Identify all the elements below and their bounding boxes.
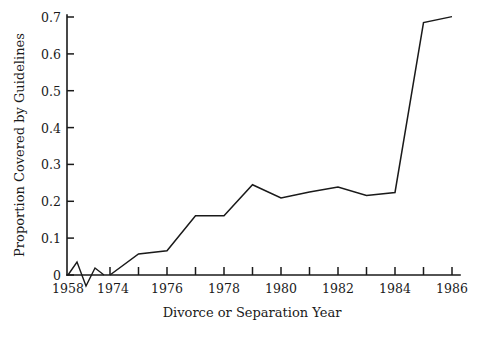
x-tick-label-1980: 1980 [265, 281, 297, 296]
data-series-line [110, 17, 452, 275]
y-tick-label: 0.2 [41, 194, 61, 209]
y-axis-title: Proportion Covered by Guidelines [12, 33, 27, 257]
x-axis-title: Divorce or Separation Year [163, 305, 342, 320]
y-tick-label: 0.5 [41, 84, 61, 99]
y-tick-label: 0.1 [41, 231, 61, 246]
y-tick-label: 0.3 [41, 157, 61, 172]
x-tick-label-1958: 1958 [52, 281, 84, 296]
x-tick-label-1986: 1986 [436, 281, 468, 296]
y-tick-label: 0.6 [41, 47, 61, 62]
y-axis-tick-labels: 0 0.1 0.2 0.3 0.4 0.5 0.6 0.7 [41, 10, 61, 283]
x-tick-label-1984: 1984 [379, 281, 411, 296]
x-axis-ticks [110, 267, 452, 275]
y-axis-ticks [67, 17, 74, 275]
chart-figure: Proportion Covered by Guidelines Divorce… [0, 0, 484, 339]
chart-canvas: Proportion Covered by Guidelines Divorce… [0, 0, 484, 339]
x-tick-label-1978: 1978 [208, 281, 240, 296]
x-tick-label-1982: 1982 [322, 281, 354, 296]
x-axis-tick-labels: 1958 1974 1976 1978 1980 1982 1984 1986 [52, 281, 468, 296]
y-tick-label: 0.4 [41, 121, 61, 136]
x-tick-label-1976: 1976 [151, 281, 183, 296]
x-tick-label-1974: 1974 [97, 281, 129, 296]
y-tick-label: 0.7 [41, 10, 61, 25]
